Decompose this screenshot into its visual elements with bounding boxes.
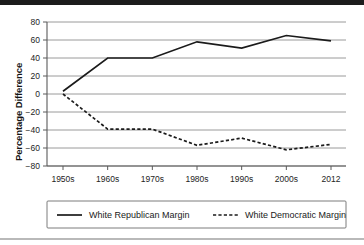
x-tick-labels-group: 1950s1960s1970s1980s1990s2000s2012 <box>51 174 340 184</box>
line-chart-svg: Percentage Difference <box>0 5 364 238</box>
x-axis-group <box>47 166 346 170</box>
y-tick-label-minus20: −20 <box>26 107 41 117</box>
y-tick-label-0: 0 <box>35 89 40 99</box>
x-tick-label-1960s: 1960s <box>96 174 119 184</box>
y-tick-labels-group: 80 60 40 20 0 −20 −40 −60 −80 <box>26 17 41 171</box>
x-tick-label-2000s: 2000s <box>275 174 298 184</box>
x-tick-label-1980s: 1980s <box>185 174 208 184</box>
y-axis-title: Percentage Difference <box>13 63 24 161</box>
x-tick-label-1970s: 1970s <box>141 174 164 184</box>
y-tick-label-60: 60 <box>31 35 41 45</box>
y-tick-label-minus80: −80 <box>26 161 41 171</box>
legend-group: White Republican Margin White Democratic… <box>47 201 346 228</box>
chart-plot-area: Percentage Difference <box>0 5 364 238</box>
x-tick-label-2012: 2012 <box>322 174 341 184</box>
legend-label-white-republican-margin: White Republican Margin <box>89 210 190 220</box>
y-axis-title-group: Percentage Difference <box>13 63 24 161</box>
y-tick-label-minus60: −60 <box>26 143 41 153</box>
data-series-group <box>63 36 331 150</box>
x-tick-label-1950s: 1950s <box>51 174 74 184</box>
figure-container: Percentage Difference <box>0 0 364 245</box>
bottom-divider-rule <box>0 238 364 240</box>
y-tick-label-minus40: −40 <box>26 125 41 135</box>
x-tick-label-1990s: 1990s <box>230 174 253 184</box>
series-line-white-republican-margin <box>63 36 331 92</box>
y-axis-group <box>43 22 47 166</box>
y-tick-label-80: 80 <box>31 17 41 27</box>
x-tickmarks-group <box>63 166 331 170</box>
legend-label-white-democratic-margin: White Democratic Margin <box>245 210 346 220</box>
series-line-white-democratic-margin <box>63 94 331 150</box>
y-tick-label-20: 20 <box>31 71 41 81</box>
y-tick-label-40: 40 <box>31 53 41 63</box>
